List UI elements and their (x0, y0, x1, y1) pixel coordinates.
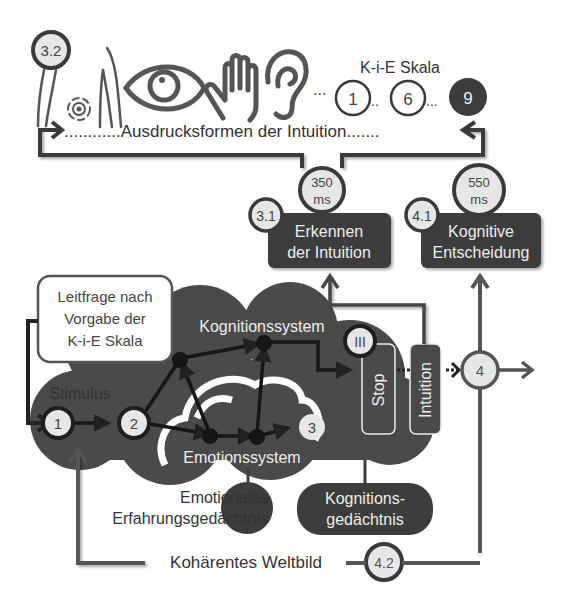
svg-text:III: III (354, 334, 366, 350)
step-badge-4-2: 4.2 (366, 544, 402, 580)
scale-sep: ... (426, 93, 438, 109)
scale-value-9-selected: 9 (449, 78, 487, 116)
expressions-label: ............Ausdrucksformen der Intuitio… (64, 122, 380, 141)
svg-text:3.1: 3.1 (256, 208, 276, 224)
svg-text:Entscheidung: Entscheidung (433, 244, 530, 261)
svg-text:ms: ms (313, 192, 331, 207)
hand-icon (206, 56, 256, 121)
cognition-memory-box: Kognitions- gedächtnis (297, 483, 433, 535)
intuition-box: Intuition (410, 344, 441, 434)
svg-text:350: 350 (311, 175, 333, 190)
eye-icon (126, 67, 204, 109)
svg-text:Stop: Stop (370, 373, 387, 406)
svg-text:4.1: 4.1 (412, 208, 432, 224)
recognition-time-badge: 350 ms (300, 168, 344, 212)
svg-text:3.2: 3.2 (41, 42, 62, 59)
svg-text:9: 9 (463, 89, 472, 108)
guiding-question-box: Leitfrage nach Vorgabe der K-i-E Skala (38, 276, 172, 362)
stop-box: Stop (362, 344, 395, 434)
svg-text:ms: ms (470, 192, 488, 207)
svg-text:Erfahrungsgedächtnis: Erfahrungsgedächtnis (112, 510, 268, 527)
step-badge-4-1: 4.1 (406, 199, 438, 231)
scale-sep: .. (371, 93, 379, 109)
posture-icon (100, 48, 121, 127)
recognition-box: Erkennen der Intuition (268, 213, 391, 268)
node-4: 4 (462, 352, 498, 388)
svg-text:Intuition: Intuition (417, 362, 434, 418)
step-badge-3-1: 3.1 (250, 199, 282, 231)
decision-time-badge: 550 ms (454, 165, 504, 215)
node-1: 1 (43, 408, 73, 438)
svg-text:Emotionales: Emotionales (180, 489, 268, 506)
svg-text:der Intuition: der Intuition (287, 244, 371, 261)
node-2: 2 (119, 408, 149, 438)
svg-text:1: 1 (348, 90, 357, 109)
svg-text:Kognitions-: Kognitions- (325, 490, 405, 507)
svg-text:1: 1 (54, 415, 62, 432)
scale-value-1: 1 (336, 81, 370, 115)
ear-icon (268, 52, 307, 118)
ellipsis: ... (313, 81, 326, 98)
svg-text:Kognitive: Kognitive (448, 223, 514, 240)
svg-text:550: 550 (468, 175, 490, 190)
body-sense-icon (38, 70, 56, 126)
svg-text:3: 3 (308, 419, 316, 436)
roman-badge-iii: III (345, 326, 375, 356)
svg-text:6: 6 (403, 90, 412, 109)
svg-text:Vorgabe der: Vorgabe der (64, 310, 146, 327)
svg-text:4.2: 4.2 (374, 555, 394, 571)
svg-text:2: 2 (130, 415, 138, 432)
cognition-system-label: Kognitionssystem (199, 318, 324, 335)
expressions-section: 3.2 (33, 32, 487, 168)
world-view-label: Kohärentes Weltbild (170, 553, 322, 572)
svg-text:4: 4 (476, 362, 484, 379)
scale-title: K-i-E Skala (360, 59, 440, 76)
target-icon (68, 98, 90, 120)
step-badge-3-2: 3.2 (33, 32, 69, 68)
svg-text:K-i-E Skala: K-i-E Skala (67, 332, 143, 349)
intuition-process-diagram: 3.2 (0, 0, 564, 602)
scale-value-6: 6 (391, 81, 425, 115)
svg-text:gedächtnis: gedächtnis (326, 511, 403, 528)
svg-text:Erkennen: Erkennen (295, 223, 364, 240)
decision-box: Kognitive Entscheidung (421, 213, 541, 268)
node-3: 3 (299, 414, 325, 440)
stimulus-label: Stimulus (49, 385, 110, 402)
emotion-system-label: Emotionssystem (183, 449, 300, 466)
svg-text:Leitfrage nach: Leitfrage nach (57, 288, 152, 305)
